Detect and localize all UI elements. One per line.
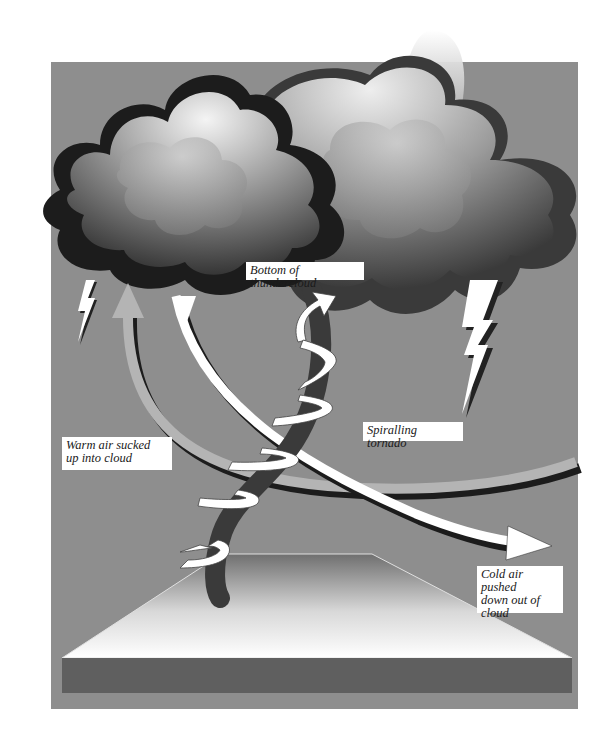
label-spiralling-tornado: Spiralling tornado [363,422,463,441]
label-cold-air: Cold air pushed down out of cloud [477,566,563,613]
label-bottom-of-thundercloud: Bottom of thundercloud [246,262,364,280]
tornado-diagram: Bottom of thundercloud Warm air sucked u… [0,0,614,734]
label-warm-air: Warm air sucked up into cloud [62,437,172,470]
diagram-artwork [0,0,614,734]
